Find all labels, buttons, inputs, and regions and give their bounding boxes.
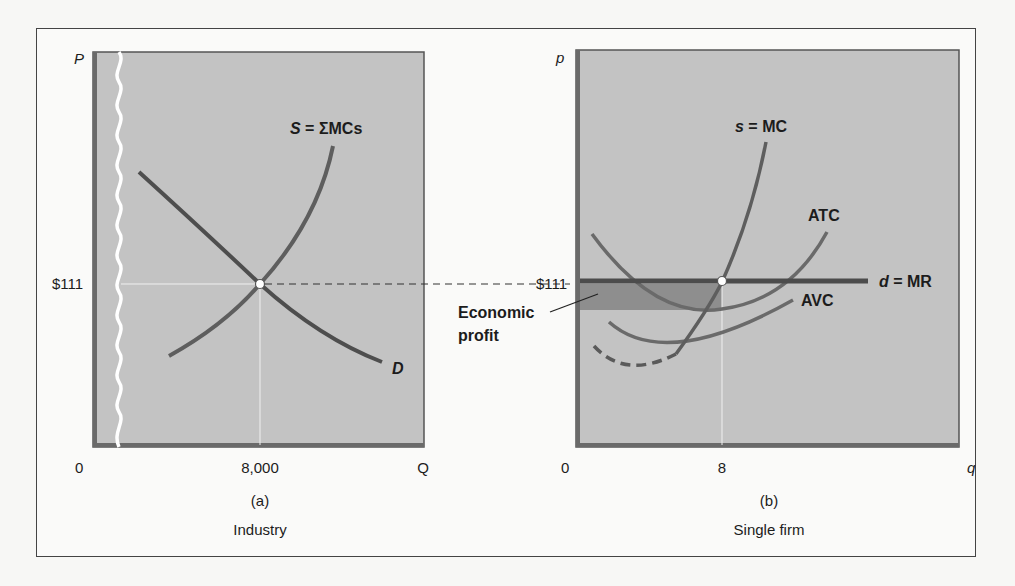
panel-b-origin-label: 0 <box>561 459 569 476</box>
equilibrium-point <box>256 280 265 289</box>
panel-a-industry: P $111 S = ΣMCs D 0 8,000 Q (a) Industry <box>52 50 429 538</box>
panel-b-price-label: $111 <box>536 275 567 292</box>
economic-profit-label-line2: profit <box>458 327 500 344</box>
panel-b-caption: Single firm <box>734 521 805 538</box>
economic-profit-label-line1: Economic <box>458 304 535 321</box>
panel-a-x-axis-label: Q <box>417 459 429 476</box>
panel-b-x-axis-label: q <box>967 459 976 476</box>
panel-a-y-axis-label: P <box>74 50 84 67</box>
panel-b-quantity-label: 8 <box>718 459 726 476</box>
panel-b-plot-area <box>576 50 959 447</box>
atc-label: ATC <box>808 207 840 224</box>
chart-figure: P $111 S = ΣMCs D 0 8,000 Q (a) Industry <box>0 0 1015 586</box>
panel-b-y-axis-label: p <box>555 49 564 66</box>
panel-a-price-label: $111 <box>52 275 83 292</box>
panel-b-single-firm: p $111 s = MC ATC AVC d = MR Economic pr… <box>458 49 976 538</box>
avc-label: AVC <box>801 292 834 309</box>
profit-max-point <box>718 277 727 286</box>
panel-a-tag: (a) <box>251 492 269 509</box>
supply-label: S = ΣMCs <box>290 120 362 137</box>
mc-label: s = MC <box>735 118 787 135</box>
economic-profit-area <box>580 284 722 310</box>
demand-label: D <box>392 360 404 377</box>
panel-a-origin-label: 0 <box>75 459 83 476</box>
panel-a-plot-area <box>93 52 424 447</box>
panel-a-caption: Industry <box>233 521 287 538</box>
panel-b-tag: (b) <box>760 492 778 509</box>
mr-label: d = MR <box>879 273 932 290</box>
panel-a-quantity-label: 8,000 <box>241 459 279 476</box>
